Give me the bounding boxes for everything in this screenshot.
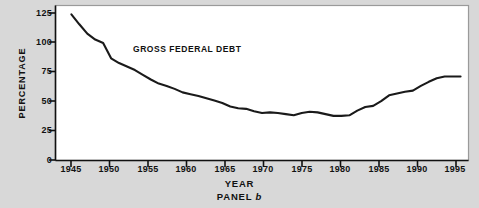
panel-caption-prefix: PANEL — [217, 191, 252, 202]
series-annotation-label: GROSS FEDERAL DEBT — [133, 44, 241, 54]
panel-caption-letter: b — [256, 191, 263, 202]
plot-area — [0, 0, 479, 208]
plot-frame — [56, 6, 469, 161]
x-axis — [56, 161, 469, 168]
y-axis — [49, 6, 56, 161]
panel-caption: PANEL b — [0, 191, 479, 202]
x-axis-title: YEAR — [0, 178, 479, 189]
figure-panel-b: PERCENTAGE 125 100 75 50 25 0 1945 1950 … — [0, 0, 479, 208]
